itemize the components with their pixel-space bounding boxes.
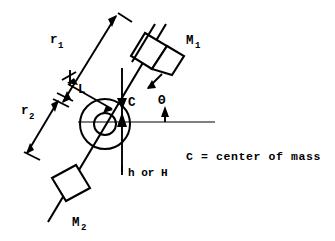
mass-m2-body (52, 165, 90, 201)
mass-m1-label-subscript: 1 (195, 41, 201, 51)
mass-m1-label: M 1 (186, 34, 201, 51)
mass-m2-label: M 2 (72, 216, 86, 233)
radius-r2-label-subscript: 2 (29, 112, 34, 122)
mass-m1-label-text: M (186, 34, 194, 48)
r2-dimension-line (27, 101, 58, 153)
mass-m2-label-subscript: 2 (81, 223, 86, 233)
height-label-text: h or H (128, 167, 168, 179)
center-of-mass-diagram: M 1 M 2 r 1 (0, 0, 335, 241)
r1-dimension-line (63, 16, 116, 102)
mass-m2-rectangle (52, 165, 90, 201)
legend-text: C = center of mass (186, 150, 321, 163)
r1-tick-top (118, 13, 132, 22)
radius-r2-label-text: r (21, 104, 29, 118)
radius-r1-label-subscript: 1 (58, 41, 64, 51)
radius-r1-label-text: r (50, 33, 58, 47)
radius-r1-label: r 1 (50, 33, 64, 51)
radius-r2-dimension (24, 99, 69, 160)
mass-m2-label-text: M (72, 216, 80, 230)
center-of-mass-label-text: C (128, 96, 136, 110)
radius-r2-label: r 2 (21, 104, 34, 122)
theta-label-text: Θ (158, 94, 166, 108)
diagram-root: M 1 M 2 r 1 (0, 0, 335, 241)
length-L-label-text: L (78, 83, 86, 97)
inner-circle (94, 113, 116, 135)
radius-r1-dimension (57, 13, 132, 103)
height-arrowhead-up (117, 112, 127, 127)
